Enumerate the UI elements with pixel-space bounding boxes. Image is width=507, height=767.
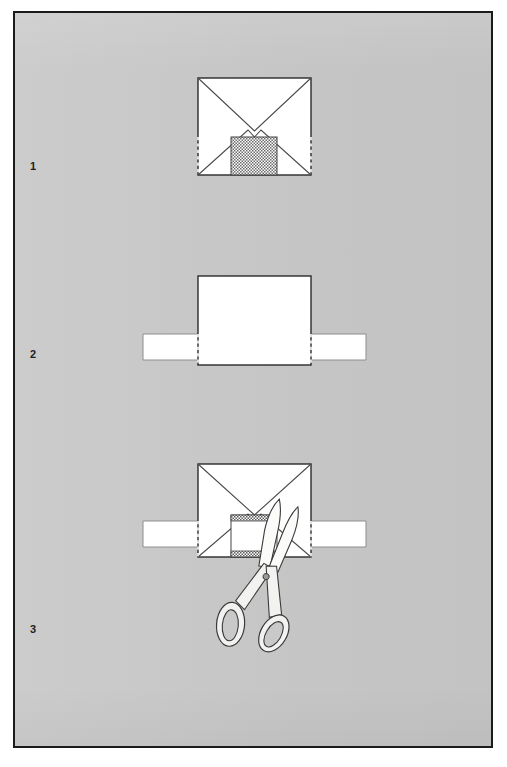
step-3-illustration — [0, 0, 507, 767]
step-number-2: 2 — [30, 349, 36, 360]
figure-root: 1 2 3 — [0, 0, 507, 767]
step-number-1: 1 — [30, 161, 36, 172]
step-number-3: 3 — [30, 624, 36, 635]
